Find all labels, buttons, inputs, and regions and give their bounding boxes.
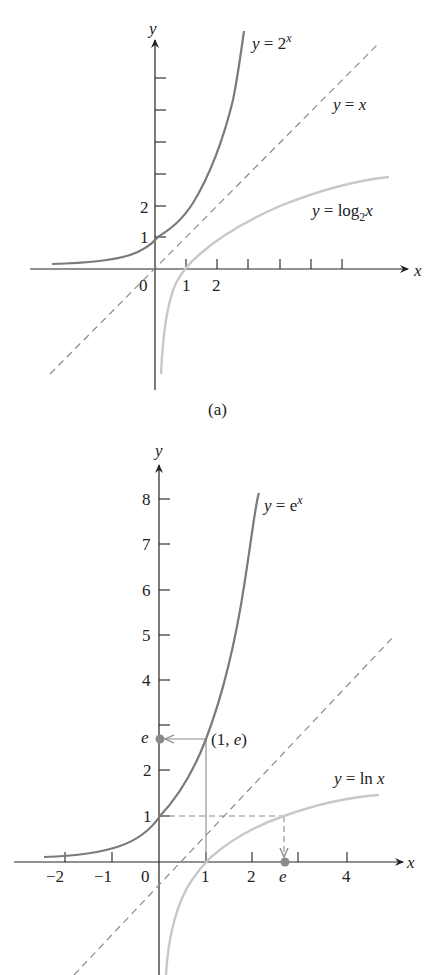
x-tick-label-neg1: −1 [94,867,112,886]
y-ticks [155,78,166,237]
label-ln-x: y = ln x [332,769,385,788]
panel-label-a: (a) [208,400,227,419]
x-tick-label-0: 0 [141,867,150,886]
y-tick-label-2: 2 [140,198,149,217]
y-tick-label-1: 1 [140,228,149,247]
x-tick-label-1: 1 [201,867,210,886]
x-tick-label-neg2: −2 [46,867,64,886]
x-axis-label: x [413,261,422,280]
x-tick-label-4: 4 [342,867,351,886]
y-tick-label-1: 1 [143,807,152,826]
point-e-on-y-axis [156,735,165,744]
x-axis-label: x [406,853,415,872]
x-tick-label-0: 0 [139,276,148,295]
y-tick-label-5: 5 [142,626,151,645]
label-e-pow-x: y = ex [262,493,303,515]
y-axis-label: y [153,441,163,460]
label-y-equals-x: y = x [331,95,367,114]
x-tick-label-2: 2 [212,276,221,295]
label-2-pow-x: y = 2x [250,31,292,53]
x-tick-label-1: 1 [182,276,191,295]
x-ticks [186,259,342,269]
line-y-equals-x [74,635,395,975]
y-tick-label-4: 4 [142,671,151,690]
y-axis-label: y [147,19,157,38]
figure: x y 0 1 2 1 2 y = 2x [0,0,446,975]
x-tick-label-e: e [279,867,287,886]
chart-a: x y 0 1 2 1 2 y = 2x [30,19,422,419]
curve-e-pow-x [44,493,259,857]
chart-b: x y −2 −1 0 1 2 e 4 1 [14,441,415,975]
y-tick-label-8: 8 [142,490,151,509]
x-tick-label-2: 2 [247,867,256,886]
y-tick-label-e: e [141,728,149,747]
y-ticks [159,499,170,816]
y-tick-label-7: 7 [142,535,151,554]
y-tick-label-2: 2 [143,761,152,780]
label-log2-x: y = log2x [310,201,373,224]
annotation-1-e: (1, e) [211,730,247,749]
point-e-on-x-axis [281,858,290,867]
y-tick-label-6: 6 [142,581,151,600]
